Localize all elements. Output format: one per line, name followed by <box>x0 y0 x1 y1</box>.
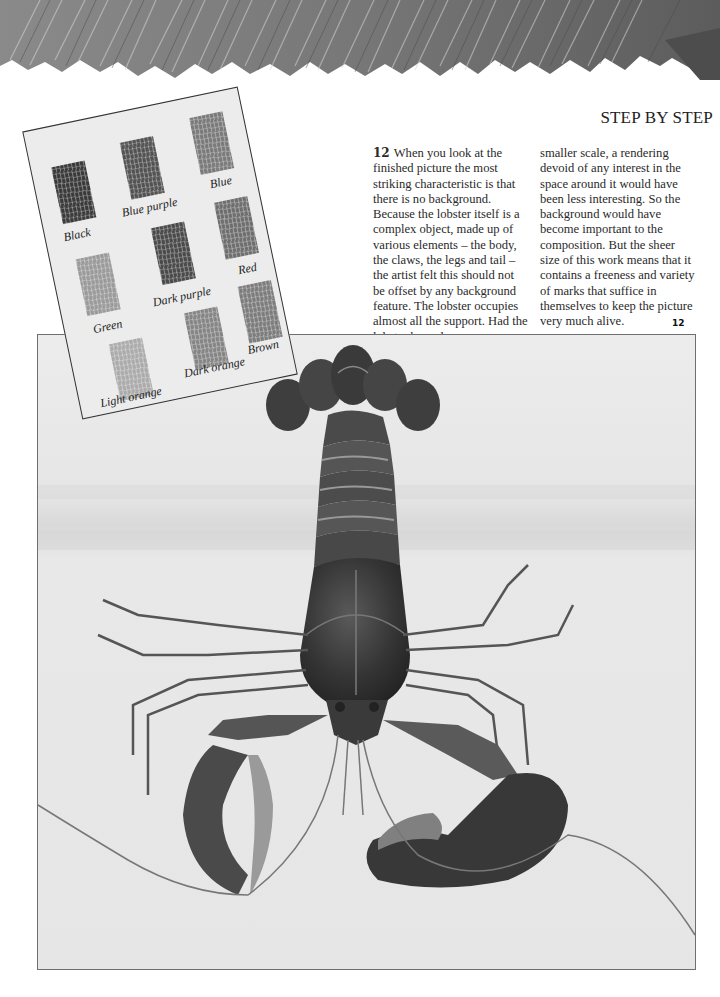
article-line: become important to the <box>540 222 710 237</box>
article-line: complex object, made up of <box>373 222 533 237</box>
article-line: Because the lobster itself is a <box>373 207 533 222</box>
figure-number: 12 <box>672 318 685 328</box>
swatch-label: Green <box>92 316 124 337</box>
article-line: of marks that suffice in <box>540 284 710 299</box>
article-line: devoid of any interest in the <box>540 161 710 176</box>
article-line: smaller scale, a rendering <box>540 146 710 161</box>
swatch-label: Blue <box>209 173 234 192</box>
article-line: striking characteristic is that <box>373 177 533 192</box>
article-line: contains a freeness and variety <box>540 268 710 283</box>
swatch-blue <box>189 111 234 175</box>
swatch-brown <box>238 280 283 344</box>
article-line: be offset by any background <box>373 284 533 299</box>
article-line: the claws, the legs and tail – <box>373 253 533 268</box>
swatch-dark-purple <box>151 221 196 285</box>
swatch-label: Black <box>62 225 92 245</box>
step-number: 12 <box>373 146 390 160</box>
lobster-drawing <box>37 334 696 970</box>
lobster-carapace <box>300 558 410 703</box>
article-line: feature. The lobster occupies <box>373 299 533 314</box>
article-line: composition. But the sheer <box>540 238 710 253</box>
swatch-label: Red <box>237 260 258 278</box>
swatch-label: Blue purple <box>121 195 179 221</box>
article-line: almost all the support. Had the <box>373 314 533 329</box>
pencil-scribble-header <box>0 0 720 80</box>
article-line: space around it would have <box>540 177 710 192</box>
article-column-1: 12When you look at the finished picture … <box>373 146 533 345</box>
lobster-abdomen <box>314 410 400 567</box>
article-line: the artist felt this should not <box>373 268 533 283</box>
article-column-2: smaller scale, a rendering devoid of any… <box>540 146 710 330</box>
swatch-green <box>76 252 121 316</box>
swatch-label: Dark purple <box>152 284 213 311</box>
article-line: 12When you look at the <box>373 146 533 161</box>
article-line: various elements – the body, <box>373 238 533 253</box>
article-line: background would have <box>540 207 710 222</box>
article-line: themselves to keep the picture <box>540 299 710 314</box>
article-line: there is no background. <box>373 192 533 207</box>
section-title: STEP BY STEP <box>523 108 713 128</box>
swatch-black <box>51 160 96 224</box>
swatch-blue-purple <box>120 136 165 200</box>
article-line: finished picture the most <box>373 161 533 176</box>
article-line: size of this work means that it <box>540 253 710 268</box>
article-line: been less interesting. So the <box>540 192 710 207</box>
swatch-red <box>214 196 259 260</box>
